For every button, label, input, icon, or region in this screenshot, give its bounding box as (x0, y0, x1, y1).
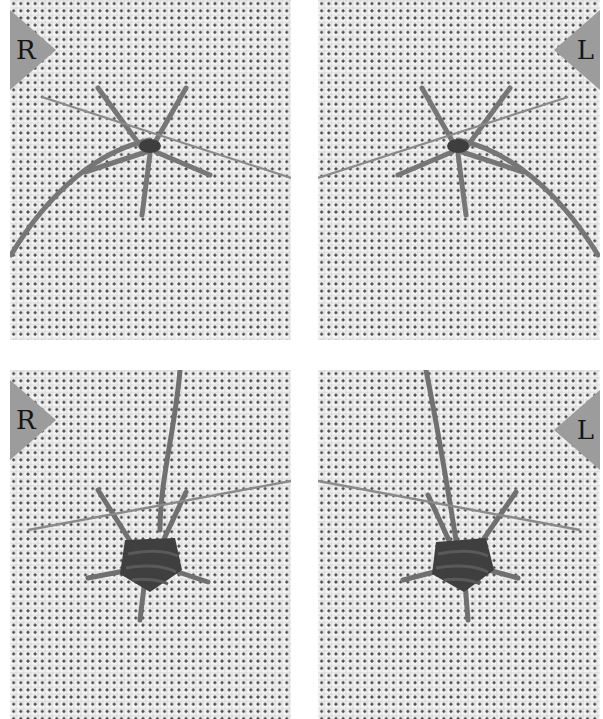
panel-top-right-left-handed: L (318, 0, 600, 340)
needle (318, 97, 568, 178)
stitch-spokes-illustration (10, 0, 291, 340)
panel-bottom-right-left-handed: L (318, 370, 600, 719)
woven-wheel-illustration (318, 370, 600, 719)
needle (42, 97, 291, 178)
woven-wheel-illustration (10, 370, 291, 719)
stitch-spokes-illustration (318, 0, 600, 340)
panel-top-left-right-handed: R (10, 0, 291, 340)
panel-bottom-left-right-handed: R (10, 370, 291, 719)
